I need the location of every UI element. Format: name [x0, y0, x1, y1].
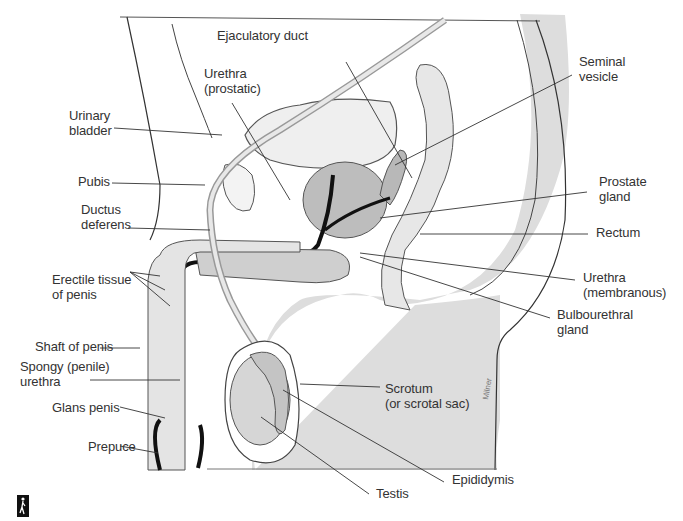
label-urinary-bladder: Urinary bladder	[69, 108, 112, 138]
label-urethra-membranous: Urethra (membranous)	[583, 270, 666, 300]
label-pubis: Pubis	[78, 174, 110, 189]
label-shaft-of-penis: Shaft of penis	[35, 339, 113, 354]
label-testis: Testis	[376, 486, 409, 501]
label-prepuce: Prepuce	[88, 439, 136, 454]
label-scrotum: Scrotum (or scrotal sac)	[385, 381, 469, 411]
prostate	[303, 162, 387, 238]
label-spongy-urethra: Spongy (penile) urethra	[20, 359, 110, 389]
seminal-vesicle-shape	[380, 150, 407, 205]
leader-line	[114, 128, 222, 135]
leader-line	[112, 183, 205, 185]
label-ejaculatory-duct: Ejaculatory duct	[217, 28, 308, 43]
anatomy-diagram: Milner Ejaculatory duct Urethra (prostat…	[0, 0, 683, 521]
label-prostate-gland: Prostate gland	[599, 174, 647, 204]
walking-figure-icon	[17, 495, 29, 517]
label-ductus-deferens: Ductus deferens	[81, 202, 131, 232]
label-seminal-vesicle: Seminal vesicle	[579, 54, 625, 84]
label-epididymis: Epididymis	[452, 472, 514, 487]
label-glans-penis: Glans penis	[52, 400, 120, 415]
leader-line	[128, 228, 210, 230]
label-erectile-tissue: Erectile tissue of penis	[52, 272, 131, 302]
label-rectum: Rectum	[596, 225, 640, 240]
label-bulbourethral-gland: Bulbourethral gland	[557, 307, 633, 337]
label-urethra-prostatic: Urethra (prostatic)	[204, 66, 261, 96]
